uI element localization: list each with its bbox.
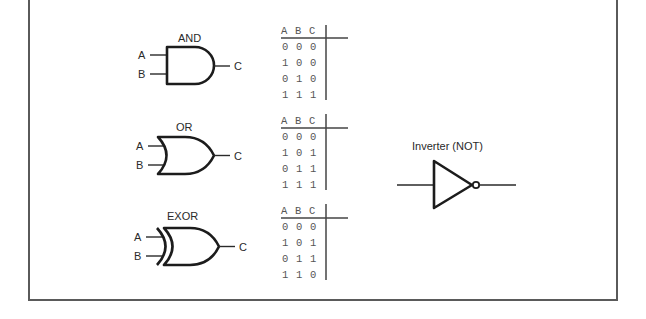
tt-cell: 1 [282,147,288,159]
tt-cell: 0 [296,237,302,249]
tt-cell: 0 [282,73,288,85]
tt-cell: 0 [282,253,288,265]
tt-cell: 0 [310,131,316,143]
tt-cell: 0 [310,221,316,233]
tt-cell: 0 [310,73,316,85]
and-output-label: C [234,60,242,72]
tt-cell: 1 [296,163,302,175]
tt-cell: 1 [282,237,288,249]
tt-header-b: B [295,205,301,217]
inverter-gate: Inverter (NOT) [397,140,516,208]
exor-input-b-label: B [134,250,141,262]
tt-cell: 1 [296,73,302,85]
tt-cell: 0 [296,147,302,159]
tt-header-a: A [281,25,288,37]
tt-cell: 1 [310,179,316,191]
tt-cell: 1 [282,57,288,69]
tt-cell: 0 [282,131,288,143]
exor-input-a-label: A [134,231,142,243]
and-gate-symbol [167,47,214,84]
tt-cell: 1 [282,269,288,281]
or-truth-table: A B C 0 0 0 1 0 1 0 1 1 1 1 1 [281,114,348,191]
tt-header-c: C [309,205,315,217]
exor-gate-label: EXOR [167,210,198,222]
or-output-label: C [234,150,242,162]
or-gate-label: OR [176,121,193,133]
or-input-a-label: A [136,140,144,152]
exor-gate: EXOR A B C [134,210,247,265]
tt-header-c: C [309,25,315,37]
exor-output-label: C [239,241,247,253]
tt-cell: 1 [310,237,316,249]
or-input-b-label: B [136,159,143,171]
tt-cell: 0 [282,163,288,175]
tt-cell: 1 [282,89,288,101]
tt-header-a: A [281,205,288,217]
tt-cell: 0 [310,57,316,69]
tt-cell: 1 [296,179,302,191]
or-gate: OR A B C [136,121,242,174]
and-gate: AND A B C [138,32,242,84]
tt-cell: 0 [282,221,288,233]
exor-truth-table: A B C 0 0 0 1 0 1 0 1 1 1 1 0 [281,204,348,281]
tt-cell: 0 [296,57,302,69]
tt-cell: 0 [310,41,316,53]
tt-cell: 0 [296,221,302,233]
logic-gates-diagram: AND A B C A B C 0 0 0 1 0 0 0 1 0 1 1 1 … [0,0,646,319]
tt-cell: 1 [282,179,288,191]
tt-cell: 1 [310,253,316,265]
and-gate-label: AND [178,32,201,44]
inverter-triangle [434,161,472,208]
tt-header-a: A [281,115,288,127]
and-input-a-label: A [138,49,146,61]
or-gate-symbol [158,137,214,174]
inverter-label: Inverter (NOT) [412,140,483,152]
tt-cell: 0 [296,131,302,143]
tt-cell: 1 [310,89,316,101]
exor-gate-symbol [164,228,219,265]
inverter-bubble [473,182,479,188]
tt-cell: 1 [296,253,302,265]
tt-cell: 0 [296,41,302,53]
tt-cell: 1 [310,147,316,159]
tt-cell: 1 [296,269,302,281]
tt-cell: 1 [296,89,302,101]
tt-header-b: B [295,25,301,37]
tt-cell: 0 [310,269,316,281]
exor-extra-curve [157,228,166,265]
tt-header-c: C [309,115,315,127]
and-truth-table: A B C 0 0 0 1 0 0 0 1 0 1 1 1 [281,25,348,101]
and-input-b-label: B [138,68,145,80]
tt-cell: 0 [282,41,288,53]
tt-cell: 1 [310,163,316,175]
tt-header-b: B [295,115,301,127]
